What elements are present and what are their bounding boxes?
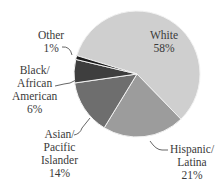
label-black-value: 6% [12,103,57,116]
label-asian-name3: Islander [41,154,78,167]
label-white-name: White [150,29,178,42]
label-black-name3: American [12,90,57,103]
label-asian-value: 14% [41,167,78,180]
label-hispanic-name1: Hispanic/ [170,143,214,156]
label-hispanic-name2: Latina [170,156,214,169]
leader-black [55,80,76,86]
label-black-name2: African [12,77,57,90]
label-asian-name2: Pacific [41,141,78,154]
label-black: Black/ African American 6% [12,64,57,116]
leader-hispanic [150,141,168,150]
label-other: Other 1% [38,29,64,55]
label-white-value: 58% [150,42,178,55]
label-white: White 58% [150,29,178,55]
label-other-name: Other [38,29,64,42]
pie-slices [74,11,200,137]
label-hispanic-value: 21% [170,169,214,182]
label-asian-name1: Asian/ [41,128,78,141]
label-other-value: 1% [38,42,64,55]
label-asian: Asian/ Pacific Islander 14% [41,128,78,180]
label-black-name1: Black/ [12,64,57,77]
label-hispanic: Hispanic/ Latina 21% [170,143,214,182]
